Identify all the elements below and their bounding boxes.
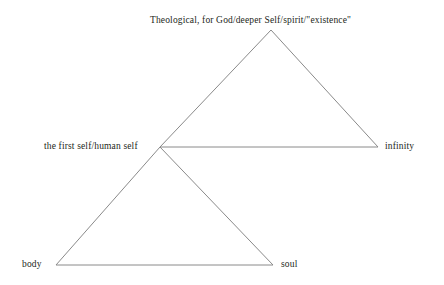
- node-label-theological: Theological, for God/deeper Self/spirit/…: [150, 15, 351, 26]
- node-label-infinity: infinity: [385, 141, 414, 152]
- lower-right-edge: [160, 147, 273, 265]
- upper-right-edge: [271, 30, 378, 147]
- diagram-canvas: Theological, for God/deeper Self/spirit/…: [0, 0, 444, 285]
- upper-left-edge: [160, 30, 271, 147]
- lower-left-edge: [56, 147, 160, 265]
- node-label-first-self: the first self/human self: [44, 141, 138, 152]
- node-label-body: body: [22, 259, 42, 270]
- node-label-soul: soul: [281, 259, 297, 270]
